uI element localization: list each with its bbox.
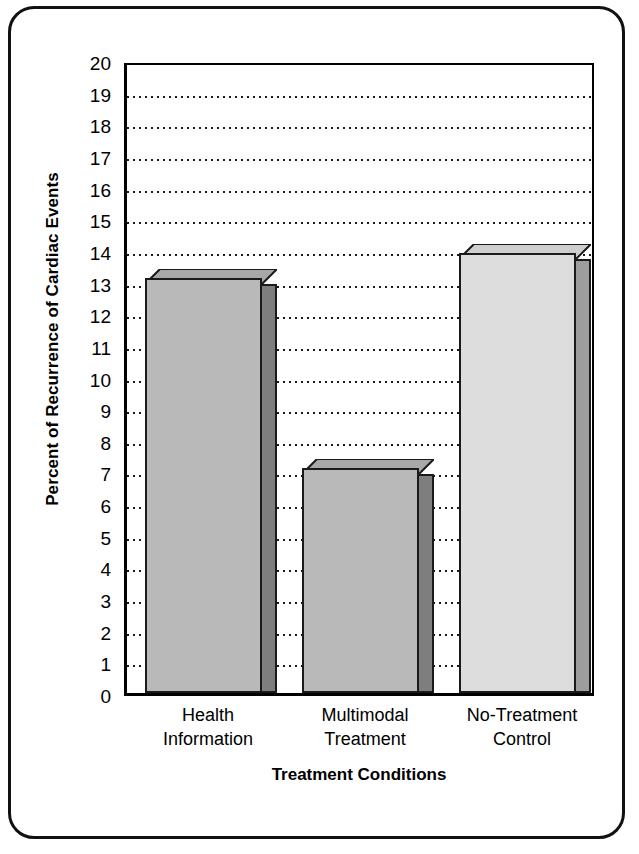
x-tick-label-line: Multimodal [280, 703, 450, 727]
x-tick-label: MultimodalTreatment [280, 703, 450, 752]
bars-layer [127, 65, 592, 693]
x-tick-label-line: No-Treatment [437, 703, 607, 727]
y-axis-tick-labels: 01234567891011121314151617181920 [63, 63, 119, 696]
y-tick-label: 7 [100, 465, 111, 484]
y-tick-label: 19 [90, 85, 111, 104]
x-axis-tick-labels: HealthInformationMultimodalTreatmentNo-T… [124, 703, 594, 763]
y-tick-label: 18 [90, 117, 111, 136]
bar-side-face [576, 259, 591, 693]
x-axis-title: Treatment Conditions [124, 765, 594, 785]
plot-area [124, 63, 594, 696]
bar [145, 269, 277, 693]
y-tick-label: 8 [100, 433, 111, 452]
bar [459, 244, 591, 693]
y-tick-label: 9 [100, 402, 111, 421]
bar-front-face [302, 468, 419, 693]
bar-front-face [459, 253, 576, 693]
y-tick-label: 3 [100, 592, 111, 611]
y-tick-label: 0 [100, 687, 111, 706]
y-tick-label: 4 [100, 560, 111, 579]
y-tick-label: 20 [90, 54, 111, 73]
bar-side-face [419, 474, 434, 693]
x-tick-label-line: Health [123, 703, 293, 727]
y-tick-label: 17 [90, 148, 111, 167]
y-tick-label: 14 [90, 243, 111, 262]
y-tick-label: 16 [90, 180, 111, 199]
x-tick-label: HealthInformation [123, 703, 293, 752]
y-tick-label: 2 [100, 623, 111, 642]
y-tick-label: 1 [100, 655, 111, 674]
bar-side-face [262, 284, 277, 693]
y-tick-label: 5 [100, 528, 111, 547]
y-tick-label: 10 [90, 370, 111, 389]
y-tick-label: 15 [90, 212, 111, 231]
x-tick-label-line: Treatment [280, 727, 450, 751]
figure-frame: Percent of Recurrence of Cardiac Events … [8, 6, 625, 839]
y-tick-label: 13 [90, 275, 111, 294]
x-tick-label: No-TreatmentControl [437, 703, 607, 752]
x-tick-label-line: Information [123, 727, 293, 751]
y-tick-label: 12 [90, 307, 111, 326]
y-tick-label: 11 [91, 338, 111, 357]
y-tick-label: 6 [100, 497, 111, 516]
x-tick-label-line: Control [437, 727, 607, 751]
y-axis-title: Percent of Recurrence of Cardiac Events [43, 129, 63, 549]
bar-front-face [145, 278, 262, 693]
bar [302, 459, 434, 693]
